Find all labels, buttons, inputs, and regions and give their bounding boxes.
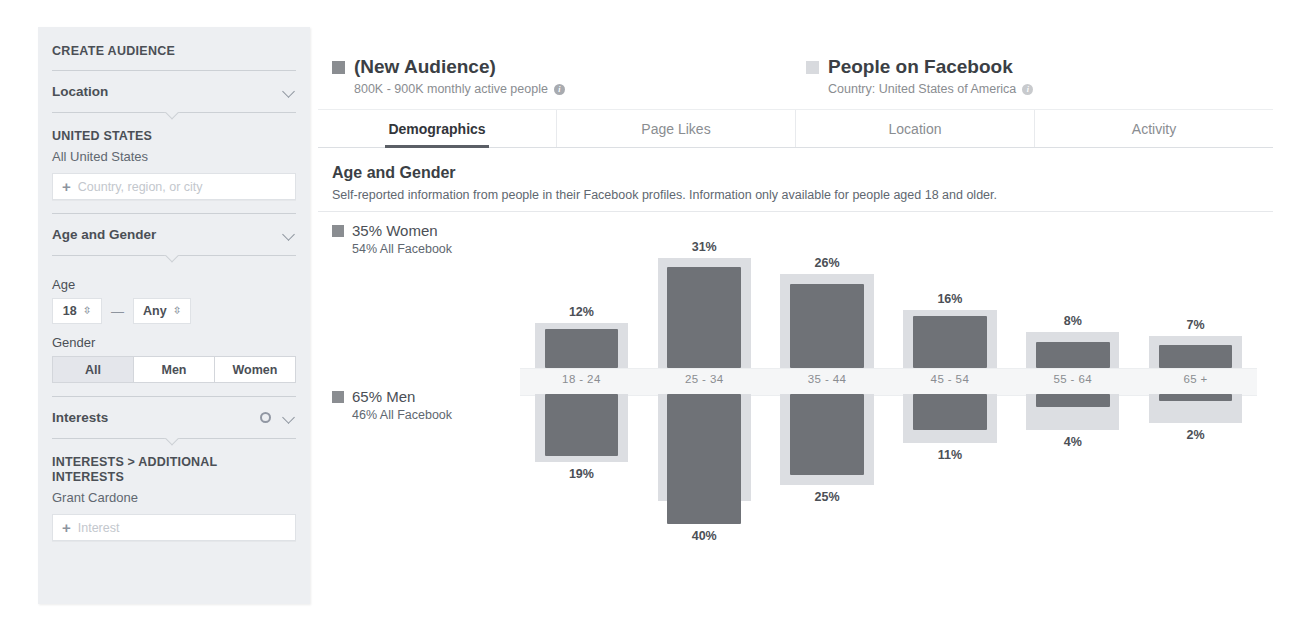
- panel-header: (New Audience) 800K - 900K monthly activ…: [318, 40, 1273, 96]
- legend-women-sub: 54% All Facebook: [352, 242, 532, 256]
- comparison-subtitle: Country: United States of America: [828, 82, 1016, 96]
- bar-value-label-women: 12%: [520, 305, 643, 319]
- bar-value-label-men: 40%: [643, 529, 766, 543]
- legend-swatch-icon: [332, 391, 344, 403]
- audience-swatch-icon: [332, 61, 345, 74]
- chart-group: 7%2%65 +: [1134, 216, 1257, 556]
- chart-plot-area: 12%19%18 - 2431%40%25 - 3426%25%35 - 441…: [520, 216, 1257, 556]
- section-description: Self-reported information from people in…: [332, 188, 1259, 202]
- section-title: Age and Gender: [332, 164, 1259, 182]
- up-down-arrows-icon: ⇳: [173, 306, 181, 316]
- chevron-down-icon[interactable]: [283, 228, 296, 241]
- bar-value-label-women: 16%: [889, 292, 1012, 306]
- age-max-value: Any: [143, 304, 167, 318]
- audience-subtitle-row: 800K - 900K monthly active people i: [354, 82, 565, 96]
- interests-heading: INTERESTS > ADDITIONAL INTERESTS: [52, 455, 222, 485]
- age-gender-icons: [283, 228, 296, 241]
- age-max-stepper[interactable]: Any ⇳: [133, 298, 191, 324]
- section-label-location: Location: [52, 84, 108, 99]
- legend-men: 65% Men 46% All Facebook: [332, 388, 532, 422]
- gender-option-men[interactable]: Men: [133, 357, 214, 382]
- x-axis-tick-label: 45 - 54: [889, 373, 1012, 385]
- bar-value-label-men: 25%: [766, 490, 889, 504]
- bar-audience-women: [667, 267, 741, 368]
- bar-audience-men: [667, 394, 741, 524]
- gender-option-all[interactable]: All: [53, 357, 133, 382]
- tab-bar: Demographics Page Likes Location Activit…: [318, 109, 1273, 148]
- sidebar-section-location[interactable]: Location: [52, 71, 296, 112]
- location-input[interactable]: + Country, region, or city: [52, 173, 296, 200]
- tab-demographics[interactable]: Demographics: [318, 110, 557, 147]
- x-axis-tick-label: 25 - 34: [643, 373, 766, 385]
- age-label: Age: [52, 277, 296, 292]
- bar-audience-women: [1036, 342, 1110, 368]
- audience-header: (New Audience) 800K - 900K monthly activ…: [332, 56, 806, 96]
- x-axis-tick-label: 18 - 24: [520, 373, 643, 385]
- legend-men-label: 65% Men: [352, 388, 415, 405]
- sidebar-title: CREATE AUDIENCE: [52, 27, 296, 70]
- bar-value-label-women: 26%: [766, 256, 889, 270]
- tab-page-likes[interactable]: Page Likes: [557, 110, 796, 147]
- bar-audience-women: [790, 284, 864, 369]
- chevron-down-icon[interactable]: [283, 411, 296, 424]
- section-notch: [52, 113, 296, 123]
- tab-activity[interactable]: Activity: [1035, 110, 1273, 147]
- gear-icon[interactable]: [260, 412, 271, 423]
- location-subheading: All United States: [52, 149, 296, 164]
- tab-label: Activity: [1132, 121, 1176, 137]
- sidebar-section-interests[interactable]: Interests: [52, 397, 296, 438]
- active-tab-underline: [385, 145, 489, 148]
- bar-value-label-men: 2%: [1134, 428, 1257, 442]
- bar-audience-men: [1036, 394, 1110, 407]
- chart-group: 31%40%25 - 34: [643, 216, 766, 556]
- section-notch: [52, 256, 296, 266]
- comparison-title: People on Facebook: [828, 56, 1033, 78]
- interest-input[interactable]: + Interest: [52, 514, 296, 541]
- bar-audience-women: [545, 329, 619, 368]
- tab-label: Location: [889, 121, 942, 137]
- age-min-value: 18: [63, 304, 77, 318]
- bar-value-label-men: 19%: [520, 467, 643, 481]
- insights-panel: (New Audience) 800K - 900K monthly activ…: [318, 40, 1273, 610]
- legend-men-sub: 46% All Facebook: [352, 408, 532, 422]
- screen: CREATE AUDIENCE Location UNITED STATES A…: [0, 0, 1293, 630]
- location-input-placeholder: Country, region, or city: [78, 180, 203, 194]
- section-label-age-gender: Age and Gender: [52, 227, 156, 242]
- sidebar-section-age-gender[interactable]: Age and Gender: [52, 214, 296, 255]
- info-icon[interactable]: i: [554, 84, 565, 95]
- chart-group: 8%4%55 - 64: [1011, 216, 1134, 556]
- bar-audience-men: [545, 394, 619, 456]
- bar-audience-men: [790, 394, 864, 475]
- bar-audience-women: [1159, 345, 1233, 368]
- age-gender-chart: 35% Women 54% All Facebook 65% Men 46% A…: [318, 216, 1273, 556]
- gender-segmented-control: All Men Women: [52, 356, 296, 383]
- tab-location[interactable]: Location: [796, 110, 1035, 147]
- bar-audience-women: [913, 316, 987, 368]
- comparison-header: People on Facebook Country: United State…: [806, 56, 1033, 96]
- age-min-stepper[interactable]: 18 ⇳: [52, 298, 102, 324]
- chevron-down-icon[interactable]: [283, 85, 296, 98]
- bar-value-label-men: 4%: [1011, 435, 1134, 449]
- interests-icons: [260, 411, 296, 424]
- create-audience-sidebar: CREATE AUDIENCE Location UNITED STATES A…: [38, 27, 310, 604]
- legend-women-label: 35% Women: [352, 222, 438, 239]
- tab-label: Demographics: [388, 121, 485, 137]
- bar-audience-men: [1159, 394, 1233, 401]
- legend-women: 35% Women 54% All Facebook: [332, 222, 532, 256]
- x-axis-tick-label: 35 - 44: [766, 373, 889, 385]
- bar-value-label-men: 11%: [889, 448, 1012, 462]
- bar-value-label-women: 31%: [643, 240, 766, 254]
- comparison-subtitle-row: Country: United States of America i: [828, 82, 1033, 96]
- plus-icon: +: [62, 520, 71, 535]
- chart-group: 12%19%18 - 24: [520, 216, 643, 556]
- audience-title: (New Audience): [354, 56, 565, 78]
- bar-value-label-women: 8%: [1011, 314, 1134, 328]
- info-icon[interactable]: i: [1022, 84, 1033, 95]
- section-notch: [52, 439, 296, 449]
- chart-group: 16%11%45 - 54: [889, 216, 1012, 556]
- gender-option-women[interactable]: Women: [214, 357, 295, 382]
- bar-value-label-women: 7%: [1134, 318, 1257, 332]
- gender-label: Gender: [52, 335, 296, 350]
- interest-input-placeholder: Interest: [78, 521, 120, 535]
- legend-swatch-icon: [332, 225, 344, 237]
